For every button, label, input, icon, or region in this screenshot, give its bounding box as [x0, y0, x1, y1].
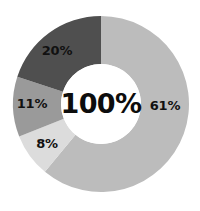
slice-label: 11%: [17, 96, 48, 111]
slice-label: 61%: [150, 98, 181, 113]
slice-label: 8%: [36, 136, 58, 151]
donut-chart: 61%8%11%20% 100%: [0, 0, 200, 211]
center-total-label: 100%: [60, 88, 142, 119]
donut-chart-svg: 61%8%11%20% 100%: [0, 0, 200, 211]
slice-label: 20%: [42, 43, 73, 58]
